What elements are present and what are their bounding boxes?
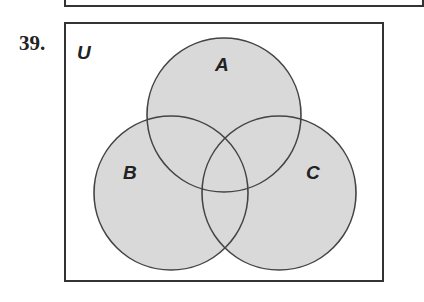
set-a-label: A <box>214 54 229 75</box>
universe-label: U <box>77 42 92 63</box>
set-b-label: B <box>123 162 137 183</box>
set-c-label: C <box>306 162 320 183</box>
